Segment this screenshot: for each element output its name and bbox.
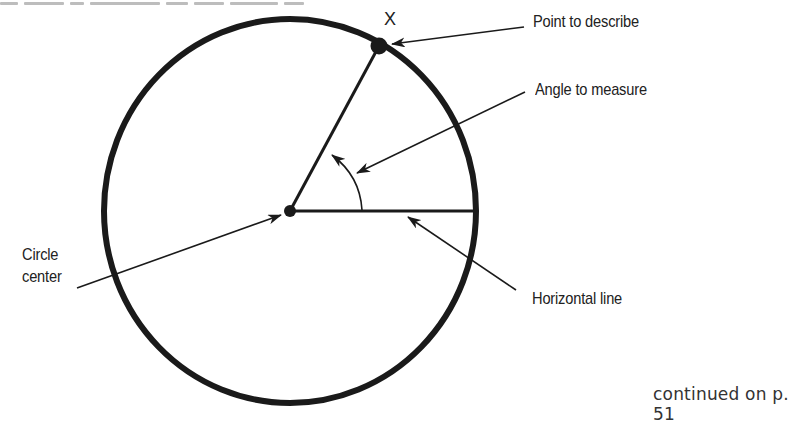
angle-arc	[332, 155, 362, 210]
point-x-label: X	[384, 9, 396, 30]
diagram: X Point to describe Angle to measure Cir…	[0, 0, 812, 424]
circle-center-label: Circle center	[22, 244, 62, 288]
point-to-describe-label: Point to describe	[533, 12, 639, 32]
point-x-dot	[371, 38, 388, 55]
circle-center-label-line2: center	[22, 266, 62, 288]
point-leader-arrow	[392, 27, 524, 44]
circle-center-label-line1: Circle	[22, 244, 62, 266]
horizontal-line-label: Horizontal line	[532, 289, 622, 309]
center-dot	[284, 205, 296, 217]
angle-to-measure-label: Angle to measure	[535, 80, 647, 100]
circle-diagram	[0, 0, 812, 424]
continued-note: continued on p. 51	[653, 384, 812, 424]
radius-line	[290, 46, 379, 211]
